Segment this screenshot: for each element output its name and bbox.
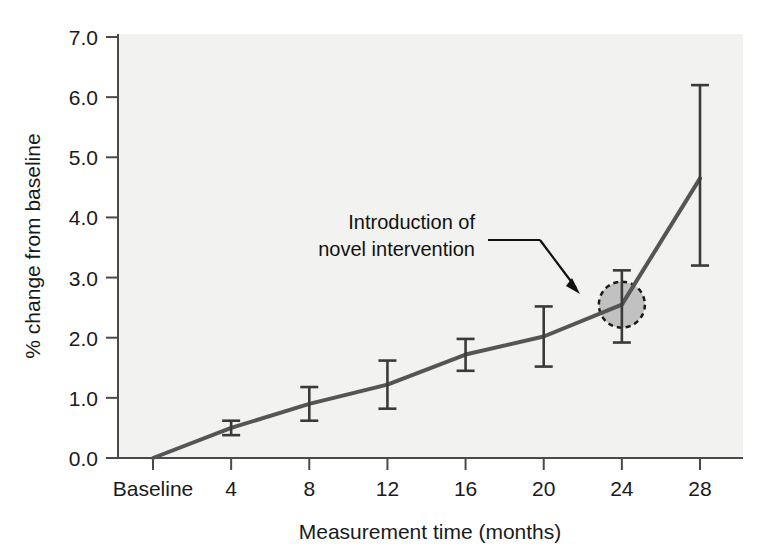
x-tick-label-16: 16 <box>454 477 477 500</box>
x-axis-title: Measurement time (months) <box>299 520 562 543</box>
x-tick-label-20: 20 <box>532 477 555 500</box>
x-tick-label-4: 4 <box>225 477 237 500</box>
x-tick-label-12: 12 <box>376 477 399 500</box>
y-tick-label-0.0: 0.0 <box>69 447 98 470</box>
annotation-text-line-1: Introduction of <box>348 211 475 233</box>
y-tick-label-4.0: 4.0 <box>69 206 98 229</box>
y-tick-label-1.0: 1.0 <box>69 387 98 410</box>
x-axis-ticks <box>153 458 700 470</box>
x-tick-label-Baseline: Baseline <box>113 477 194 500</box>
x-axis-tick-labels: Baseline481216202428 <box>113 477 712 500</box>
y-tick-label-5.0: 5.0 <box>69 146 98 169</box>
y-tick-label-6.0: 6.0 <box>69 86 98 109</box>
figure-container: 0.01.02.03.04.05.06.07.0 Baseline4812162… <box>0 0 771 554</box>
y-axis-ticks <box>106 37 118 458</box>
x-tick-label-8: 8 <box>303 477 315 500</box>
y-tick-label-2.0: 2.0 <box>69 327 98 350</box>
y-axis-title: % change from baseline <box>21 133 44 358</box>
y-axis-tick-labels: 0.01.02.03.04.05.06.07.0 <box>69 26 98 470</box>
annotation-text-line-2: novel intervention <box>318 238 475 260</box>
x-tick-label-24: 24 <box>610 477 634 500</box>
y-tick-label-3.0: 3.0 <box>69 267 98 290</box>
x-tick-label-28: 28 <box>688 477 711 500</box>
y-tick-label-7.0: 7.0 <box>69 26 98 49</box>
line-chart: 0.01.02.03.04.05.06.07.0 Baseline4812162… <box>0 0 771 554</box>
